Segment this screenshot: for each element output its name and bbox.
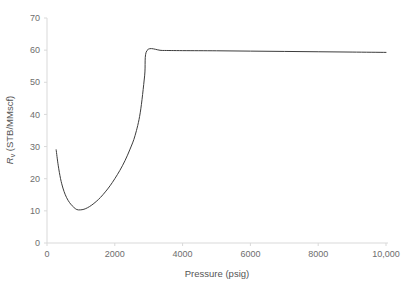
x-tick-label: 2000 (105, 249, 125, 259)
x-axis-title: Pressure (psig) (185, 268, 249, 279)
y-axis-units: (STB/MMscf) (4, 96, 15, 151)
y-axis-ticks: 010203040506070 (30, 13, 47, 248)
x-tick-label: 0 (44, 249, 49, 259)
y-tick-label: 30 (30, 142, 40, 152)
x-tick-label: 10,000 (372, 249, 400, 259)
chart-svg: 010203040506070 0200040006000800010,000 … (0, 0, 411, 285)
y-tick-label: 40 (30, 110, 40, 120)
y-tick-label: 70 (30, 13, 40, 23)
y-tick-label: 60 (30, 45, 40, 55)
x-axis-ticks: 0200040006000800010,000 (44, 243, 399, 259)
y-tick-label: 0 (35, 238, 40, 248)
y-tick-label: 20 (30, 174, 40, 184)
x-tick-label: 4000 (173, 249, 193, 259)
x-tick-label: 6000 (240, 249, 260, 259)
y-tick-label: 10 (30, 206, 40, 216)
svg-text:Rv (STB/MMscf): Rv (STB/MMscf) (4, 96, 16, 164)
y-axis-title: Rv (STB/MMscf) (4, 96, 16, 164)
x-tick-label: 8000 (308, 249, 328, 259)
data-series-line (56, 49, 386, 210)
y-tick-label: 50 (30, 77, 40, 87)
chart-container: 010203040506070 0200040006000800010,000 … (0, 0, 411, 285)
